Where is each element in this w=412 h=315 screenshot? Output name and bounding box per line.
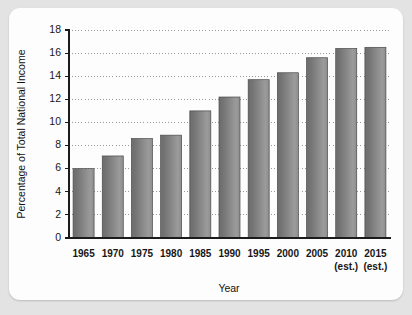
bar	[277, 73, 298, 238]
bar	[219, 97, 240, 238]
bar	[131, 139, 152, 238]
y-axis-title: Percentage of Total National Income	[15, 49, 27, 218]
screenshot-scene: 024681012141618 196519701975198019851990…	[0, 0, 412, 315]
bar	[365, 47, 386, 238]
bar	[190, 111, 211, 238]
x-tick-label: 1990	[218, 248, 241, 259]
y-tick-label: 4	[55, 185, 61, 197]
x-tick-sublabel: (est.)	[334, 261, 358, 272]
y-tick-label: 16	[49, 46, 61, 58]
x-tick-label: 2015	[364, 248, 387, 259]
x-tick-label: 1980	[160, 248, 183, 259]
bar	[102, 156, 123, 238]
y-tick-label: 10	[49, 115, 61, 127]
y-tick-label: 2	[55, 208, 61, 220]
y-tick-label: 14	[49, 69, 61, 81]
x-tick-label: 1985	[189, 248, 212, 259]
y-tick-labels-group: 024681012141618	[49, 23, 61, 243]
x-tick-label: 2010	[335, 248, 358, 259]
x-tick-labels-group: 1965197019751980198519901995200020052010…	[72, 248, 387, 272]
bars-group	[73, 47, 386, 238]
x-tick-sublabel: (est.)	[363, 261, 387, 272]
y-tick-label: 18	[49, 23, 61, 35]
chart-card: 024681012141618 196519701975198019851990…	[9, 8, 403, 300]
x-tick-label: 2005	[306, 248, 329, 259]
x-tick-label: 1970	[102, 248, 125, 259]
bar	[248, 80, 269, 238]
bar	[73, 169, 94, 238]
x-tick-label: 2000	[277, 248, 300, 259]
y-tick-label: 8	[55, 138, 61, 150]
bar	[336, 48, 357, 238]
x-tick-label: 1965	[72, 248, 95, 259]
y-tick-label: 6	[55, 161, 61, 173]
x-axis-title: Year	[218, 282, 240, 294]
y-tick-label: 12	[49, 92, 61, 104]
bar-chart: 024681012141618 196519701975198019851990…	[9, 8, 403, 300]
chart-figure: 024681012141618 196519701975198019851990…	[9, 8, 403, 300]
bar	[161, 135, 182, 238]
y-tick-label: 0	[55, 231, 61, 243]
x-tick-label: 1995	[248, 248, 271, 259]
bar	[307, 58, 328, 238]
x-tick-label: 1975	[131, 248, 154, 259]
